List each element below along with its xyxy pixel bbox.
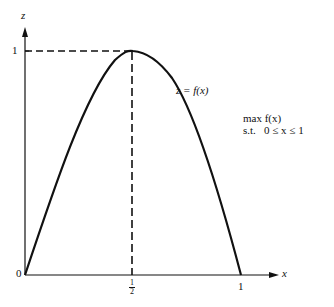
constraint-line: s.t. 0 ≤ x ≤ 1	[243, 124, 304, 136]
x-axis-label: x	[282, 267, 287, 279]
y-axis-label: z	[21, 9, 25, 21]
function-curve	[25, 51, 241, 275]
origin-label: 0	[16, 267, 22, 279]
objective-line: max f(x)	[243, 112, 304, 124]
y-tick-label-1: 1	[12, 44, 18, 56]
half-denominator: 2	[130, 287, 134, 296]
y-axis-arrow-icon	[22, 27, 28, 37]
half-numerator: 1	[130, 278, 134, 287]
diagram-canvas	[0, 0, 334, 307]
curve-label: z = f(x)	[176, 84, 208, 96]
x-tick-label-1: 1	[238, 280, 244, 292]
x-tick-label-half: 1 2	[128, 279, 136, 296]
x-axis-arrow-icon	[269, 272, 279, 278]
problem-statement: max f(x) s.t. 0 ≤ x ≤ 1	[243, 112, 304, 136]
